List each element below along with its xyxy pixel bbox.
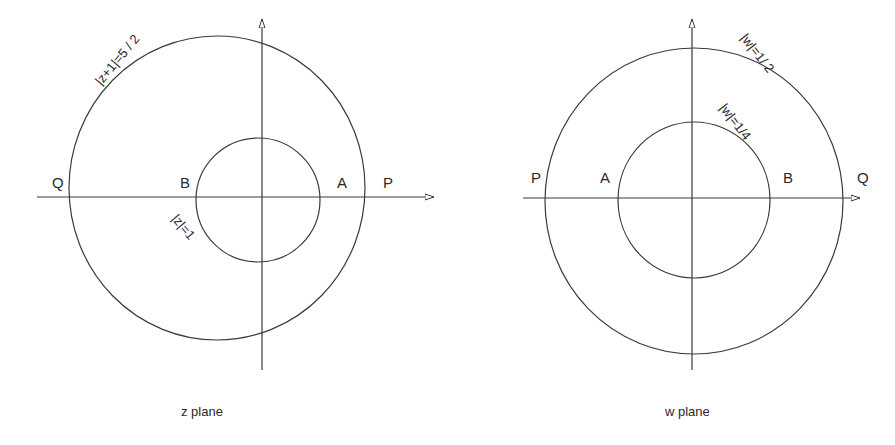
z-plane-diagram: Q B A P |z+1|=5 / 2 |z|=1 z plane [37,19,434,419]
z-point-a: A [337,174,347,191]
w-plane-diagram: P A B Q |w|=1/ 2 |w|=1/4 w plane [523,19,869,419]
z-inner-circle [196,138,320,262]
z-plane-caption: z plane [181,404,223,419]
w-inner-circle-label: |w|=1/4 [717,101,755,143]
w-point-p: P [531,169,541,186]
w-point-a: A [600,169,610,186]
z-outer-circle [69,36,365,340]
w-outer-circle-label: |w|=1/ 2 [738,31,778,76]
z-outer-circle-label: |z+1|=5 / 2 [92,32,143,88]
z-point-q: Q [52,174,64,191]
z-inner-circle-label: |z|=1 [169,211,199,242]
w-point-q: Q [857,169,869,186]
w-plane-caption: w plane [664,404,710,419]
w-outer-circle [545,48,843,354]
mapping-figure: Q B A P |z+1|=5 / 2 |z|=1 z plane P A B … [0,0,895,445]
w-point-b: B [783,169,793,186]
z-point-b: B [180,174,190,191]
w-inner-circle [618,122,770,278]
z-point-p: P [383,174,393,191]
